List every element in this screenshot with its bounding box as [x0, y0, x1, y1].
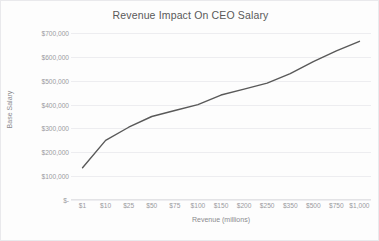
- x-axis-tick-label: $75: [169, 202, 180, 209]
- line-series-base-salary: [71, 33, 371, 200]
- x-axis-tick-label: $500: [306, 202, 321, 209]
- y-axis-tick-label: $500,000: [7, 77, 69, 84]
- x-axis-tick-label: $25: [123, 202, 134, 209]
- y-axis-tick-labels: $700,000$600,000$500,000$400,000$300,000…: [1, 33, 69, 200]
- x-axis-tick-label: $250: [260, 202, 275, 209]
- x-axis-tick-label: $50: [146, 202, 157, 209]
- x-axis-tick-label: $10: [100, 202, 111, 209]
- x-axis-tick-label: $100: [191, 202, 206, 209]
- chart-title: Revenue Impact On CEO Salary: [1, 9, 379, 21]
- plot-area: [71, 33, 371, 200]
- gridline: [71, 200, 371, 201]
- x-axis-tick-label: $150: [214, 202, 229, 209]
- x-axis-tick-labels: $1$10$25$50$75$100$150$200$250$350$500$7…: [71, 202, 371, 216]
- x-axis-title: Revenue (millions): [71, 216, 371, 223]
- x-axis-line: [71, 199, 371, 200]
- series-line-path: [83, 41, 360, 167]
- y-axis-tick-label: $400,000: [7, 101, 69, 108]
- y-axis-tick-label: $100,000: [7, 173, 69, 180]
- x-axis-tick-label: $350: [283, 202, 298, 209]
- y-axis-tick-label: $700,000: [7, 30, 69, 37]
- y-axis-tick-label: $300,000: [7, 125, 69, 132]
- y-axis-tick-label: $600,000: [7, 53, 69, 60]
- x-axis-tick-label: $1,000: [349, 202, 369, 209]
- chart-card: Revenue Impact On CEO Salary Base Salary…: [0, 0, 379, 241]
- y-axis-tick-label: $200,000: [7, 149, 69, 156]
- x-axis-tick-label: $200: [237, 202, 252, 209]
- x-axis-tick-label: $1: [79, 202, 86, 209]
- y-axis-tick-label: $-: [7, 197, 69, 204]
- x-axis-tick-label: $750: [329, 202, 344, 209]
